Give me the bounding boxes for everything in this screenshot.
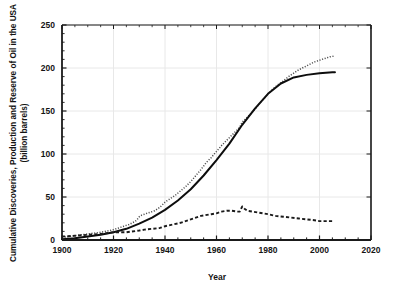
x-tick-label: 1940 xyxy=(156,245,175,255)
x-tick-label: 1920 xyxy=(104,245,123,255)
y-tick-label: 200 xyxy=(41,63,55,73)
x-tick-label: 2020 xyxy=(362,245,381,255)
x-axis-title: Year xyxy=(208,272,227,282)
chart-svg: 1900192019401960198020002020 05010015020… xyxy=(0,0,396,292)
y-tick-label: 100 xyxy=(41,149,55,159)
y-tick-label: 150 xyxy=(41,106,55,116)
x-tick-label: 1980 xyxy=(259,245,278,255)
y-axis-title-line2: (billion barrels) xyxy=(20,103,29,162)
x-tick-label: 1900 xyxy=(53,245,72,255)
y-axis-title-line1: Cumulative Discoveries, Production and R… xyxy=(9,4,18,262)
y-tick-label: 50 xyxy=(46,192,56,202)
x-tick-label: 1960 xyxy=(207,245,226,255)
y-tick-label: 250 xyxy=(41,20,55,30)
x-tick-label: 2000 xyxy=(310,245,329,255)
y-tick-label: 0 xyxy=(50,235,55,245)
oil-chart-figure: 1900192019401960198020002020 05010015020… xyxy=(0,0,396,292)
